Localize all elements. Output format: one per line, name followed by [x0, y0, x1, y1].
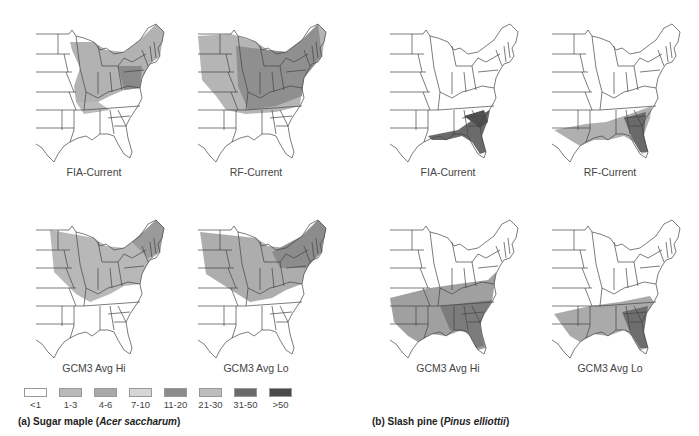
- map-slash-pine-gcm3-avg-hi: GCM3 Avg Hi: [368, 202, 528, 382]
- legend-item: 1-3: [53, 388, 88, 410]
- legend-item: >50: [263, 388, 298, 410]
- legend-label: 31-50: [233, 399, 257, 410]
- legend-label: 7-10: [131, 399, 150, 410]
- map-label: RF-Current: [530, 166, 690, 178]
- map-label: FIA-Current: [14, 166, 174, 178]
- us-map-figure: [530, 202, 690, 362]
- map-sugar-maple-gcm3-avg-lo: GCM3 Avg Lo: [176, 202, 336, 382]
- legend-label: 11-20: [164, 399, 188, 410]
- legend-label: 1-3: [64, 399, 78, 410]
- legend-swatch: [199, 388, 222, 397]
- caption-panel-b: (b) Slash pine (Pinus elliottii): [372, 416, 509, 427]
- legend-swatch: [269, 388, 292, 397]
- legend-item: 31-50: [228, 388, 263, 410]
- legend-swatch: [234, 388, 257, 397]
- legend-label: >50: [272, 399, 288, 410]
- map-sugar-maple-gcm3-avg-hi: GCM3 Avg Hi: [14, 202, 174, 382]
- caption-panel-a: (a) Sugar maple (Acer saccharum): [18, 416, 180, 427]
- legend-label: 4-6: [99, 399, 113, 410]
- us-map-figure: [176, 202, 336, 362]
- us-map-figure: [530, 6, 690, 166]
- map-label: GCM3 Avg Hi: [14, 362, 174, 374]
- map-label: GCM3 Avg Lo: [530, 362, 690, 374]
- us-map-figure: [176, 6, 336, 166]
- legend-item: 4-6: [88, 388, 123, 410]
- map-slash-pine-gcm3-avg-lo: GCM3 Avg Lo: [530, 202, 690, 382]
- legend-label: <1: [30, 399, 41, 410]
- us-map-figure: [14, 202, 174, 362]
- map-slash-pine-fia-current: FIA-Current: [368, 6, 528, 186]
- us-map-figure: [368, 6, 528, 166]
- legend-swatch: [129, 388, 152, 397]
- map-legend: <1 1-3 4-6 7-10 11-20 21-30 31-50 >50: [18, 388, 298, 410]
- legend-item: 11-20: [158, 388, 193, 410]
- legend-swatch: [24, 388, 47, 397]
- map-sugar-maple-rf-current: RF-Current: [176, 6, 336, 186]
- map-label: RF-Current: [176, 166, 336, 178]
- map-label: FIA-Current: [368, 166, 528, 178]
- map-slash-pine-rf-current: RF-Current: [530, 6, 690, 186]
- legend-label: 21-30: [198, 399, 222, 410]
- map-label: GCM3 Avg Hi: [368, 362, 528, 374]
- legend-item: 21-30: [193, 388, 228, 410]
- us-map-figure: [368, 202, 528, 362]
- legend-swatch: [94, 388, 117, 397]
- legend-swatch: [164, 388, 187, 397]
- legend-swatch: [59, 388, 82, 397]
- legend-item: 7-10: [123, 388, 158, 410]
- us-map-figure: [14, 6, 174, 166]
- map-sugar-maple-fia-current: FIA-Current: [14, 6, 174, 186]
- legend-item: <1: [18, 388, 53, 410]
- map-label: GCM3 Avg Lo: [176, 362, 336, 374]
